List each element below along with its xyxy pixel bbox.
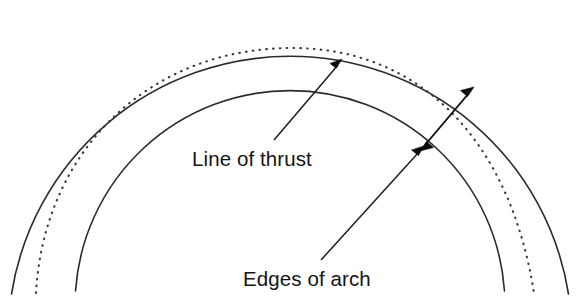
arch-thickness-arrowhead-upper (461, 87, 475, 97)
arch-diagram-figure: Line of thrust Edges of arch (0, 0, 579, 304)
edges-of-arch-leader (321, 146, 424, 260)
edges-of-arch-label: Edges of arch (243, 267, 371, 290)
line-of-thrust-label: Line of thrust (192, 147, 312, 170)
arch-thickness-line (425, 93, 469, 145)
outer-arch-edge (12, 56, 569, 294)
line-of-thrust-leader (274, 59, 342, 140)
line-of-thrust-leader-line (274, 65, 338, 140)
line-of-thrust-curve (36, 48, 534, 293)
edges-of-arch-leader-line (321, 152, 419, 260)
arch-thickness-double-arrow (420, 87, 474, 151)
arch-diagram-canvas: Line of thrust Edges of arch (0, 0, 579, 304)
